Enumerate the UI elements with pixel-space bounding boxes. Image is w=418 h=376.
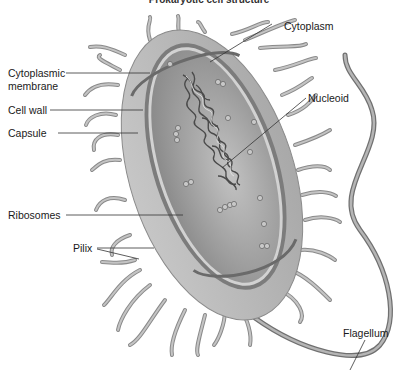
label-flagellum: Flagellum: [343, 327, 389, 339]
label-nucleoid: Nucleoid: [308, 92, 349, 104]
cell-illustration: [0, 0, 418, 376]
label-pilix: Pilix: [73, 242, 92, 254]
label-cytoplasm: Cytoplasm: [284, 20, 334, 32]
diagram-canvas: Prokaryotic cell structure: [0, 0, 418, 376]
label-ribosomes: Ribosomes: [8, 209, 61, 221]
label-cytoplasmic-membrane-line2: membrane: [8, 80, 58, 92]
label-cell-wall: Cell wall: [8, 104, 47, 116]
label-capsule: Capsule: [8, 127, 47, 139]
label-cytoplasmic-membrane-line1: Cytoplasmic: [8, 67, 65, 79]
